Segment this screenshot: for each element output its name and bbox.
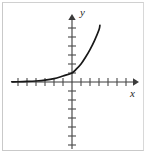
y-axis-arrow-icon [68, 14, 75, 20]
x-axis-arrow-icon [133, 78, 139, 85]
y-axis-label: y [80, 7, 85, 18]
coordinate-plane [0, 0, 147, 157]
x-axis-label: x [130, 88, 135, 99]
exponential-curve [12, 25, 100, 82]
exponential-graph-figure: y x [0, 0, 147, 157]
